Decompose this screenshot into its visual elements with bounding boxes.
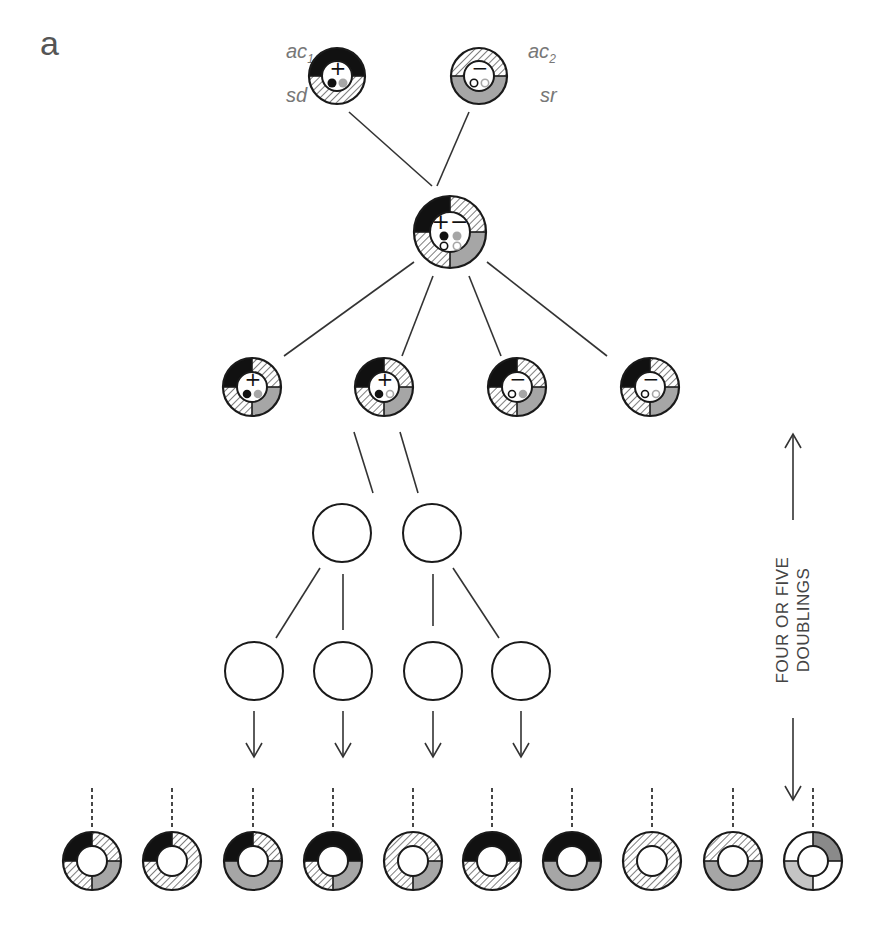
- line-hybrid-seg2: [402, 276, 433, 356]
- line-seg2-cell2: [400, 432, 418, 493]
- line-parent1-hybrid: [349, 112, 432, 186]
- progeny-nucleus-3: [224, 832, 282, 890]
- line-cell1-a: [276, 568, 320, 638]
- progeny-nucleus-4: [304, 832, 362, 890]
- progeny-nucleus-1: [63, 832, 121, 890]
- daughter-cell-gen2-3: [404, 642, 462, 700]
- segregant-nucleus-3: −: [488, 358, 546, 416]
- progeny-nucleus-8: [623, 832, 681, 890]
- mating-type-sign: +: [377, 367, 394, 391]
- diagram-canvas: +−+−++−−: [0, 0, 885, 951]
- mating-type-sign: +: [245, 367, 262, 391]
- line-hybrid-seg3: [469, 276, 501, 356]
- line-cell2-b: [453, 568, 499, 638]
- down-arrow-icon: [513, 711, 529, 757]
- segregant-nucleus-2: +: [355, 358, 413, 416]
- down-arrow-icon: [246, 711, 262, 757]
- progeny-nucleus-10: [784, 832, 842, 890]
- mating-type-sign: +: [330, 56, 347, 80]
- daughter-cell-gen2-4: [492, 642, 550, 700]
- progeny-nucleus-6: [463, 832, 521, 890]
- genetics-diagram: a ac1 sd ac2 sr FOUR OR FIVE DOUBLINGS: [0, 0, 885, 951]
- daughter-cell-gen2-2: [314, 642, 372, 700]
- parent-1-nucleus: +: [309, 48, 365, 104]
- progeny-nucleus-5: [384, 832, 442, 890]
- segregant-nucleus-1: +: [223, 358, 281, 416]
- doublings-arrow: [785, 434, 801, 800]
- mating-type-sign: −: [510, 367, 527, 391]
- mating-type-sign: −: [643, 367, 660, 391]
- line-seg2-cell1: [354, 432, 373, 493]
- progeny-nucleus-9: [704, 832, 762, 890]
- down-arrow-icon: [425, 711, 441, 757]
- line-hybrid-seg4: [487, 262, 607, 356]
- progeny-nucleus-7: [543, 832, 601, 890]
- parent-2-nucleus: −: [451, 48, 507, 104]
- down-arrow-icon: [335, 711, 351, 757]
- progeny-nucleus-2: [143, 832, 201, 890]
- daughter-cell-gen1-2: [403, 504, 461, 562]
- segregant-nucleus-4: −: [621, 358, 679, 416]
- line-hybrid-seg1: [284, 262, 414, 356]
- daughter-cell-gen1-1: [313, 504, 371, 562]
- hybrid-nucleus: +−: [414, 196, 486, 268]
- line-parent2-hybrid: [437, 112, 469, 186]
- mating-type-sign: −: [472, 56, 489, 80]
- mating-type-sign: +−: [432, 209, 469, 234]
- daughter-cell-gen2-1: [225, 642, 283, 700]
